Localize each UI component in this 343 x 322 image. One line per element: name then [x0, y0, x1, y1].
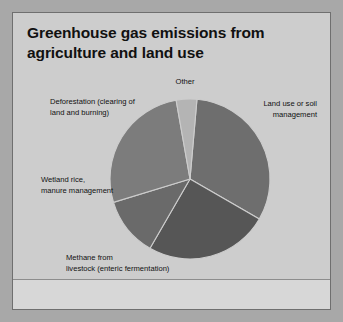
pie-label-wetland-rice-manure-management: Wetland rice, manure management: [41, 175, 151, 197]
pie-label-other: Other: [165, 77, 205, 88]
pie-chart-plot-area: Other Land use or soil management Defore…: [13, 63, 330, 263]
footer-bar: SOURCE: Baumert, 2005 IAASTD. Design: UN…: [13, 280, 330, 309]
figure-frame: Greenhouse gas emissions from agricultur…: [0, 0, 343, 322]
pie-label-deforestation: Deforestation (clearing of land and burn…: [50, 97, 172, 119]
pie-chart-svg: [13, 63, 330, 263]
pie-label-methane-from-livestock: Methane from livestock (enteric fermenta…: [66, 253, 226, 275]
pie-label-land-use-or-soil-management: Land use or soil management: [231, 99, 317, 121]
page-title: Greenhouse gas emissions from agricultur…: [27, 23, 317, 63]
figure-card: Greenhouse gas emissions from agricultur…: [12, 12, 331, 310]
